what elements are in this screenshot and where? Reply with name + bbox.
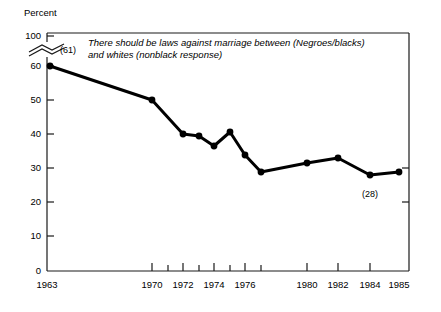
y-tick-0: 0 [36,265,41,276]
y-tick-20: 20 [30,196,41,207]
data-point [335,155,342,162]
data-point [304,160,311,167]
chart-title-line2: and whites (nonblack response) [88,49,222,60]
x-tick-1963: 1963 [36,279,57,290]
data-point [242,152,249,159]
x-tick-1980: 1980 [296,279,317,290]
x-tick-1972: 1972 [172,279,193,290]
x-tick-1974: 1974 [203,279,224,290]
data-point [196,133,203,140]
x-tick-1982: 1982 [327,279,348,290]
chart-container: Percent 100 60 [0,0,441,312]
y-tick-100: 100 [25,30,41,41]
data-point [396,169,403,176]
y-tick-60: 60 [30,60,41,71]
data-point [367,172,374,179]
chart-title-line1: There should be laws against marriage be… [88,37,365,48]
data-point [211,143,218,150]
x-tick-1985: 1985 [388,279,409,290]
y-tick-50: 50 [30,94,41,105]
y-tick-30: 30 [30,162,41,173]
y-tick-10: 10 [30,230,41,241]
data-point [47,63,54,70]
data-point [180,131,187,138]
annotation-start-value: (61) [60,45,76,55]
x-tick-1976: 1976 [234,279,255,290]
data-point [149,97,156,104]
y-tick-40: 40 [30,128,41,139]
x-tick-1970: 1970 [141,279,162,290]
data-point [258,169,265,176]
y-axis-title: Percent [24,7,57,18]
x-tick-1984: 1984 [359,279,380,290]
annotation-end-value: (28) [362,189,378,199]
data-point [227,129,234,136]
